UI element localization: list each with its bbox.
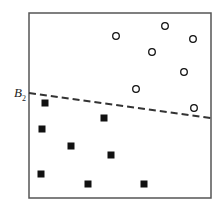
square-point	[38, 171, 45, 178]
square-point	[39, 126, 46, 133]
square-point	[101, 115, 108, 122]
circle-point	[133, 86, 140, 93]
square-point	[141, 181, 148, 188]
square-point	[42, 100, 49, 107]
circle-point	[181, 69, 188, 76]
circle-point	[113, 33, 120, 40]
boundary-label-subscript: 2	[22, 94, 26, 103]
decision-boundary-diagram	[0, 0, 222, 207]
boundary-label: B2	[14, 85, 26, 103]
class-square-points	[38, 100, 148, 188]
circle-point	[162, 23, 169, 30]
square-point	[68, 143, 75, 150]
decision-boundary-b2	[29, 93, 211, 118]
boundary-label-main: B	[14, 85, 22, 100]
square-point	[108, 152, 115, 159]
class-circle-points	[113, 23, 198, 112]
circle-point	[191, 105, 198, 112]
circle-point	[149, 49, 156, 56]
circle-point	[190, 36, 197, 43]
square-point	[85, 181, 92, 188]
